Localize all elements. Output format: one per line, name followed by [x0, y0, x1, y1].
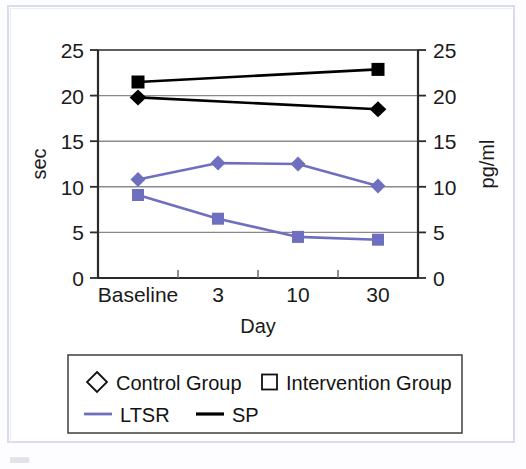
- marker-square-sp-intervention-day30: [372, 63, 385, 76]
- legend-label-ltsr[interactable]: LTSR: [120, 404, 170, 426]
- series-line-ltsr-control: [138, 163, 378, 186]
- x-tick-label-10: 10: [286, 283, 309, 306]
- scan-bleed-artifact: ▬: [10, 446, 516, 468]
- marker-diamond-sp-control-baseline: [130, 89, 147, 105]
- dual-axis-line-chart: 25 20 15 10 5 0 25 20 15 10 5 0 sec pg/m…: [0, 0, 526, 469]
- figure-container: 25 20 15 10 5 0 25 20 15 10 5 0 sec pg/m…: [0, 0, 526, 469]
- marker-square-ltsr-intervention-day3: [212, 213, 224, 225]
- marker-square-ltsr-intervention-baseline: [132, 189, 144, 201]
- marker-diamond-ltsr-control-day10: [291, 157, 306, 172]
- right-tick-label-0: 0: [433, 267, 445, 290]
- left-tick-label-10: 10: [61, 176, 84, 199]
- marker-square-ltsr-intervention-day10: [292, 231, 304, 243]
- marker-diamond-sp-control-day30: [370, 101, 387, 117]
- marker-diamond-ltsr-control-day30: [371, 178, 386, 193]
- marker-diamond-ltsr-control-day3: [211, 156, 226, 171]
- x-axis-ticks: [178, 270, 338, 278]
- series-sp-control-group: [130, 89, 387, 117]
- x-tick-labels: Baseline 3 10 30: [98, 283, 390, 306]
- chart-legend: Control Group Intervention Group LTSR SP: [68, 355, 462, 433]
- left-tick-labels: 25 20 15 10 5 0: [61, 39, 84, 290]
- legend-label-sp[interactable]: SP: [232, 404, 259, 426]
- marker-square-sp-intervention-baseline: [132, 76, 145, 89]
- series-line-sp-intervention: [138, 69, 378, 82]
- left-tick-label-25: 25: [61, 39, 84, 62]
- right-axis-ticks: [418, 50, 426, 278]
- series-ltsr-intervention-group: [132, 189, 384, 246]
- x-axis-title: Day: [240, 315, 276, 337]
- left-tick-label-0: 0: [72, 267, 84, 290]
- right-axis-title: pg/ml: [476, 140, 498, 189]
- series-sp-intervention-group: [132, 63, 385, 89]
- marker-diamond-ltsr-control-baseline: [131, 172, 146, 187]
- legend-label-control-group[interactable]: Control Group: [116, 372, 242, 394]
- left-tick-label-5: 5: [72, 221, 84, 244]
- left-axis-title: sec: [28, 148, 50, 179]
- right-tick-label-20: 20: [433, 85, 456, 108]
- right-tick-label-10: 10: [433, 176, 456, 199]
- marker-square-ltsr-intervention-day30: [372, 234, 384, 246]
- right-tick-label-5: 5: [433, 221, 445, 244]
- left-tick-label-15: 15: [61, 130, 84, 153]
- right-tick-labels: 25 20 15 10 5 0: [433, 39, 456, 290]
- x-tick-label-baseline: Baseline: [98, 283, 179, 306]
- right-tick-label-15: 15: [433, 130, 456, 153]
- series-line-sp-control: [138, 97, 378, 109]
- series-ltsr-control-group: [131, 156, 386, 194]
- legend-label-intervention-group[interactable]: Intervention Group: [286, 372, 452, 394]
- right-tick-label-25: 25: [433, 39, 456, 62]
- left-axis-ticks: [90, 50, 98, 278]
- x-tick-label-3: 3: [212, 283, 224, 306]
- left-tick-label-20: 20: [61, 85, 84, 108]
- x-tick-label-30: 30: [366, 283, 389, 306]
